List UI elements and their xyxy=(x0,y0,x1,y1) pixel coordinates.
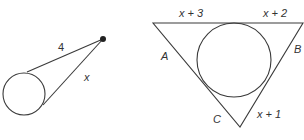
external-point-dot xyxy=(100,36,106,42)
label-top-left-segment: x + 3 xyxy=(178,7,204,19)
tangent-line-lower xyxy=(43,39,103,105)
left-circle xyxy=(3,73,45,115)
incircle-figure: x + 3 x + 2 A B C x + 1 xyxy=(153,7,303,127)
label-side-c: C xyxy=(213,113,221,125)
label-top-right-segment: x + 2 xyxy=(262,7,287,19)
label-side-b: B xyxy=(294,43,301,55)
label-tangent-lower: x xyxy=(83,71,90,83)
label-bottom-right-segment: x + 1 xyxy=(256,108,281,120)
tangent-figure: 4 x xyxy=(3,36,106,115)
inscribed-circle xyxy=(197,23,271,97)
tangent-line-upper xyxy=(27,39,103,72)
label-tangent-upper: 4 xyxy=(58,41,64,53)
label-side-a: A xyxy=(160,50,168,62)
geometry-diagram: 4 x x + 3 x + 2 A B C x + 1 xyxy=(0,0,304,140)
